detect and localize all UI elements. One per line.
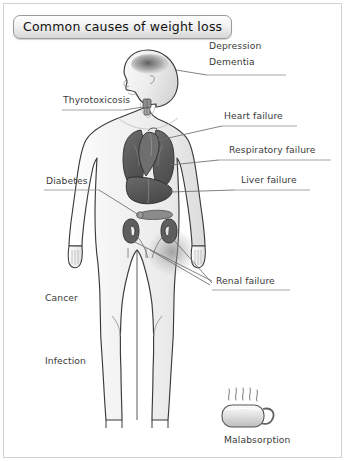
label-depression: Depression bbox=[209, 40, 261, 51]
thyroid-gland bbox=[143, 99, 151, 115]
leader-liver bbox=[170, 190, 234, 192]
steaming-mug bbox=[222, 388, 274, 427]
label-heart-failure: Heart failure bbox=[224, 110, 283, 121]
brain-shading bbox=[131, 54, 169, 74]
label-respiratory-failure: Respiratory failure bbox=[229, 144, 315, 155]
label-thyrotoxicosis: Thyrotoxicosis bbox=[63, 94, 130, 105]
label-cancer: Cancer bbox=[45, 292, 78, 303]
label-malabsorption: Malabsorption bbox=[224, 434, 291, 445]
label-renal-failure: Renal failure bbox=[216, 275, 275, 286]
weight-loss-diagram: Common causes of weight loss Depression … bbox=[0, 0, 345, 461]
label-dementia: Dementia bbox=[209, 56, 255, 67]
label-liver-failure: Liver failure bbox=[241, 174, 297, 185]
page-title: Common causes of weight loss bbox=[13, 15, 232, 39]
label-infection: Infection bbox=[45, 355, 86, 366]
head-profile bbox=[124, 50, 178, 107]
leader-dementia bbox=[176, 70, 207, 75]
label-diabetes: Diabetes bbox=[46, 175, 88, 186]
diagram-canvas bbox=[0, 0, 345, 461]
